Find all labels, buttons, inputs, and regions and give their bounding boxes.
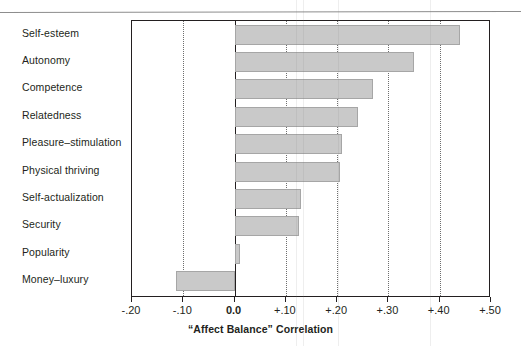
gridline bbox=[440, 21, 441, 296]
x-axis-tick-label: +.30 bbox=[377, 304, 399, 316]
bar-chart-figure: Self-esteemAutonomyCompetenceRelatedness… bbox=[0, 0, 521, 346]
bar bbox=[235, 107, 358, 127]
plot-area bbox=[131, 20, 490, 297]
bar bbox=[235, 134, 343, 154]
bar bbox=[235, 79, 373, 99]
category-label: Physical thriving bbox=[22, 164, 100, 176]
bar bbox=[235, 162, 340, 182]
x-axis-tick-label: 0.0 bbox=[226, 304, 241, 316]
x-axis-tick bbox=[490, 297, 491, 302]
category-label: Competence bbox=[22, 81, 83, 93]
category-label: Money–luxury bbox=[22, 273, 89, 285]
category-label: Relatedness bbox=[22, 109, 81, 121]
x-axis-tick bbox=[387, 297, 388, 302]
x-axis-tick-label: +.20 bbox=[325, 304, 347, 316]
category-label: Security bbox=[22, 218, 61, 230]
category-label: Self-esteem bbox=[22, 27, 79, 39]
category-label: Autonomy bbox=[22, 54, 70, 66]
x-axis-tick bbox=[131, 297, 132, 302]
x-axis-tick-label: +.40 bbox=[428, 304, 450, 316]
category-label: Popularity bbox=[22, 246, 70, 258]
gridline bbox=[183, 21, 184, 296]
x-axis-tick bbox=[439, 297, 440, 302]
bar bbox=[235, 25, 461, 45]
x-axis-tick bbox=[336, 297, 337, 302]
x-axis-tick bbox=[234, 297, 235, 302]
x-axis-tick-label: +.50 bbox=[479, 304, 501, 316]
top-divider-rule bbox=[0, 11, 521, 13]
x-axis-tick bbox=[182, 297, 183, 302]
x-axis-tick-label: +.10 bbox=[274, 304, 296, 316]
bar bbox=[235, 216, 299, 236]
category-label: Pleasure–stimulation bbox=[22, 136, 121, 148]
x-axis-title: “Affect Balance” Correlation bbox=[0, 323, 521, 335]
bar bbox=[235, 189, 302, 209]
bar bbox=[176, 271, 235, 291]
bar bbox=[235, 244, 240, 264]
category-label: Self-actualization bbox=[22, 191, 104, 203]
bar bbox=[235, 52, 415, 72]
x-axis-tick bbox=[285, 297, 286, 302]
x-axis-tick-label: -.10 bbox=[173, 304, 192, 316]
x-axis-tick-label: -.20 bbox=[122, 304, 141, 316]
